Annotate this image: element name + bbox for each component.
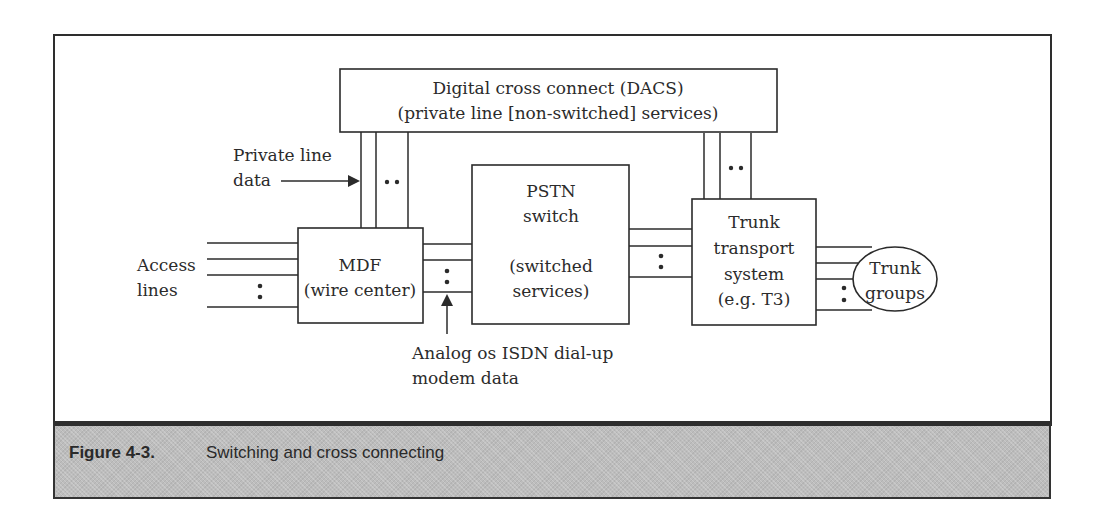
trunk-transport-line1: Trunk: [728, 212, 780, 232]
dacs-trunk-ellipsis-dots: [729, 166, 743, 170]
mdf-label-line1: MDF: [339, 255, 382, 275]
trunk-transport-line3: system: [724, 264, 784, 284]
figure-caption-band: Figure 4-3. Switching and cross connecti…: [53, 421, 1051, 499]
dacs-trunk-connectors: [704, 133, 751, 199]
private-line-data-line1: Private line: [233, 145, 332, 165]
trunk-groups-node: Trunk groups: [853, 247, 937, 311]
trunk-transport-node: Trunk transport system (e.g. T3): [692, 199, 816, 325]
pstn-switch-node: PSTN switch (switched services): [472, 165, 629, 324]
analog-isdn-line2: modem data: [412, 368, 519, 388]
trunk-groups-line1: Trunk: [869, 258, 921, 278]
dacs-node: Digital cross connect (DACS) (private li…: [340, 69, 777, 132]
pstn-label-line2: switch: [523, 206, 579, 226]
analog-isdn-line1: Analog os ISDN dial-up: [411, 343, 614, 363]
figure-caption: Switching and cross connecting: [206, 443, 444, 463]
trunk-transport-line2: transport: [714, 238, 795, 258]
mdf-pstn-ellipsis-dots: [445, 269, 450, 285]
mdf-node: MDF (wire center): [298, 228, 423, 323]
access-lines-ellipsis-dots: [258, 284, 263, 300]
pstn-label-line1: PSTN: [526, 181, 575, 201]
dacs-mdf-connectors: [361, 132, 408, 228]
access-lines-label-line1: Access: [136, 255, 196, 275]
arrow-right-icon: [348, 175, 360, 187]
figure-container: Digital cross connect (DACS) (private li…: [0, 0, 1107, 530]
figure-number: Figure 4-3.: [69, 443, 155, 463]
dacs-label-line2: (private line [non-switched] services): [398, 103, 719, 123]
trunk-groups-line2: groups: [865, 283, 925, 303]
pstn-label-line3: (switched: [509, 256, 593, 276]
pstn-label-line4: services): [513, 281, 590, 301]
dacs-label-line1: Digital cross connect (DACS): [432, 78, 683, 98]
access-lines-label-line2: lines: [137, 280, 178, 300]
mdf-label-line2: (wire center): [304, 280, 416, 300]
trunk-groups-ellipsis-dots: [842, 286, 847, 303]
access-lines: [207, 243, 298, 307]
private-line-data-annotation: Private line data: [233, 145, 360, 190]
trunk-transport-line4: (e.g. T3): [718, 289, 791, 309]
dacs-mdf-ellipsis-dots: [385, 180, 399, 184]
arrow-up-icon: [441, 294, 453, 306]
pstn-trunk-connectors: [629, 229, 692, 277]
private-line-data-line2: data: [233, 170, 271, 190]
pstn-trunk-ellipsis-dots: [659, 254, 664, 270]
mdf-pstn-connectors: [423, 244, 472, 292]
